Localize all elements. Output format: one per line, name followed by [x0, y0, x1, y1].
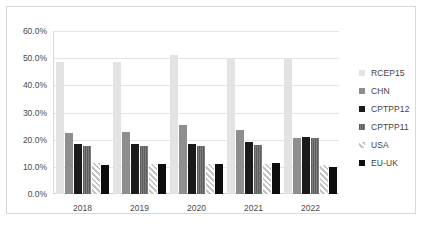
- bar-cptpp11[interactable]: [83, 146, 91, 194]
- bar-group: 2020: [168, 31, 225, 194]
- bar-eu-uk[interactable]: [158, 164, 166, 194]
- bar-cptpp12[interactable]: [131, 144, 139, 194]
- bar-cptpp12[interactable]: [74, 144, 82, 194]
- bar-rcep15[interactable]: [284, 58, 292, 194]
- legend-item-label: CHN: [371, 86, 390, 96]
- x-axis-tick-label: 2022: [301, 203, 320, 213]
- y-axis-tick-label: 60.0%: [23, 26, 47, 36]
- bar-group: 2022: [282, 31, 339, 194]
- bar-usa[interactable]: [320, 165, 328, 194]
- bar-eu-uk[interactable]: [329, 167, 337, 194]
- bar-cptpp11[interactable]: [254, 145, 262, 194]
- chart-frame: 0.0%10.0%20.0%30.0%40.0%50.0%60.0% 20182…: [6, 6, 416, 214]
- bar-eu-uk[interactable]: [101, 165, 109, 194]
- bar-rcep15[interactable]: [227, 58, 235, 194]
- plot-area: 0.0%10.0%20.0%30.0%40.0%50.0%60.0% 20182…: [54, 31, 339, 194]
- bar-cptpp11[interactable]: [197, 146, 205, 194]
- x-axis-tick-label: 2018: [73, 203, 92, 213]
- bar-chn[interactable]: [122, 132, 130, 194]
- y-axis-tick-label: 0.0%: [28, 189, 47, 199]
- bar-eu-uk[interactable]: [272, 163, 280, 194]
- legend-item-cptpp11[interactable]: CPTPP11: [359, 118, 410, 136]
- bar-usa[interactable]: [263, 164, 271, 194]
- bar-chn[interactable]: [179, 125, 187, 194]
- legend-item-label: CPTPP12: [371, 104, 410, 114]
- chart-legend: RCEP15CHNCPTPP12CPTPP11USAEU-UK: [359, 64, 410, 172]
- bar-group: 2018: [54, 31, 111, 194]
- legend-item-rcep15[interactable]: RCEP15: [359, 64, 410, 82]
- legend-swatch-icon: [359, 124, 365, 130]
- bar-rcep15[interactable]: [113, 62, 121, 194]
- legend-swatch-icon: [359, 160, 365, 166]
- legend-item-chn[interactable]: CHN: [359, 82, 410, 100]
- bar-chn[interactable]: [293, 138, 301, 194]
- y-axis-tick-label: 30.0%: [23, 108, 47, 118]
- bar-group: 2019: [111, 31, 168, 194]
- bar-cptpp11[interactable]: [311, 138, 319, 194]
- y-axis-tick-label: 50.0%: [23, 53, 47, 63]
- legend-item-usa[interactable]: USA: [359, 136, 410, 154]
- x-axis-tick-label: 2021: [244, 203, 263, 213]
- legend-item-cptpp12[interactable]: CPTPP12: [359, 100, 410, 118]
- bar-usa[interactable]: [206, 164, 214, 194]
- bar-cptpp12[interactable]: [245, 142, 253, 194]
- legend-item-label: USA: [371, 140, 389, 150]
- bar-rcep15[interactable]: [56, 62, 64, 194]
- bar-chn[interactable]: [236, 130, 244, 194]
- bar-chn[interactable]: [65, 133, 73, 194]
- legend-swatch-icon: [359, 70, 365, 76]
- bar-rcep15[interactable]: [170, 55, 178, 194]
- legend-item-eu-uk[interactable]: EU-UK: [359, 154, 410, 172]
- legend-swatch-icon: [359, 142, 365, 148]
- legend-swatch-icon: [359, 106, 365, 112]
- bar-cptpp11[interactable]: [140, 146, 148, 194]
- y-axis-tick-label: 10.0%: [23, 162, 47, 172]
- x-axis-tick-label: 2020: [187, 203, 206, 213]
- bar-groups: 20182019202020212022: [54, 31, 339, 194]
- bar-group: 2021: [225, 31, 282, 194]
- legend-swatch-icon: [359, 88, 365, 94]
- bar-usa[interactable]: [92, 163, 100, 194]
- bar-usa[interactable]: [149, 164, 157, 194]
- legend-item-label: EU-UK: [371, 158, 398, 168]
- y-axis-tick-label: 20.0%: [23, 135, 47, 145]
- legend-item-label: RCEP15: [371, 68, 405, 78]
- bar-cptpp12[interactable]: [188, 144, 196, 194]
- x-axis-tick-label: 2019: [130, 203, 149, 213]
- y-axis-tick-label: 40.0%: [23, 80, 47, 90]
- bar-cptpp12[interactable]: [302, 137, 310, 194]
- bar-eu-uk[interactable]: [215, 164, 223, 194]
- legend-item-label: CPTPP11: [371, 122, 409, 132]
